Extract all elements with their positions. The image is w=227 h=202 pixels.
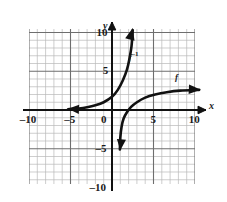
- curve-label-f-inverse: f–1: [129, 51, 139, 62]
- y-axis-label: y: [103, 21, 107, 31]
- curve-label-f: f: [175, 73, 178, 82]
- curve-f-inverse: [68, 30, 133, 109]
- graph-figure: –10–5510105–5–100 x y f–1 f: [0, 0, 227, 202]
- x-axis-label: x: [209, 101, 214, 111]
- origin-label: 0: [101, 114, 107, 125]
- x-tick-label--5: –5: [64, 114, 75, 125]
- coordinate-plane-svg: [0, 0, 227, 202]
- x-tick-label-5: 5: [150, 114, 156, 125]
- y-tick-label--5: –5: [96, 143, 107, 154]
- y-tick-label--10: –10: [89, 182, 106, 193]
- x-tick-label-10: 10: [189, 114, 200, 125]
- y-tick-label-5: 5: [103, 65, 109, 76]
- curve-f: [120, 90, 199, 150]
- curve-label-f-inverse-exponent: –1: [132, 50, 139, 58]
- x-tick-label--10: –10: [20, 114, 37, 125]
